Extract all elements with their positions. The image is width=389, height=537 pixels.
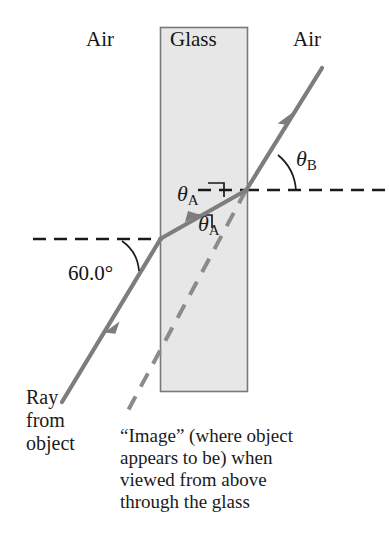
caption-line-1: “Image” (where object: [120, 425, 293, 447]
theta-a-upper-subscript: A: [188, 192, 199, 208]
caption-line-2: appears to be) when: [120, 447, 293, 469]
refraction-figure: Air Glass Air θB θA θA 60.0° Ray from ob…: [0, 0, 389, 537]
label-glass: Glass: [170, 28, 217, 50]
label-air-left: Air: [86, 28, 114, 50]
label-air-right: Air: [293, 28, 321, 50]
theta-a-lower-symbol: θ: [198, 211, 209, 236]
caption-line-3: viewed from above: [120, 469, 293, 491]
ray-line-2: from: [26, 409, 75, 432]
theta-b-subscript: B: [307, 157, 317, 173]
angle-arc-60: [122, 241, 139, 271]
label-theta-a-upper: θA: [177, 181, 199, 209]
theta-b-symbol: θ: [296, 146, 307, 171]
glass-slab: [161, 28, 248, 392]
annotation-ray-from-object: Ray from object: [26, 386, 75, 454]
annotation-image-caption: “Image” (where object appears to be) whe…: [120, 425, 293, 513]
ray-line-1: Ray: [26, 386, 75, 409]
ray-line-3: object: [26, 432, 75, 455]
caption-line-4: through the glass: [120, 491, 293, 513]
angle-arc-theta-b: [278, 155, 296, 191]
theta-a-lower-subscript: A: [209, 222, 220, 238]
theta-a-upper-symbol: θ: [177, 181, 188, 206]
label-theta-b: θB: [296, 146, 317, 174]
label-theta-a-lower: θA: [198, 211, 220, 239]
label-incidence-angle: 60.0°: [68, 262, 113, 284]
